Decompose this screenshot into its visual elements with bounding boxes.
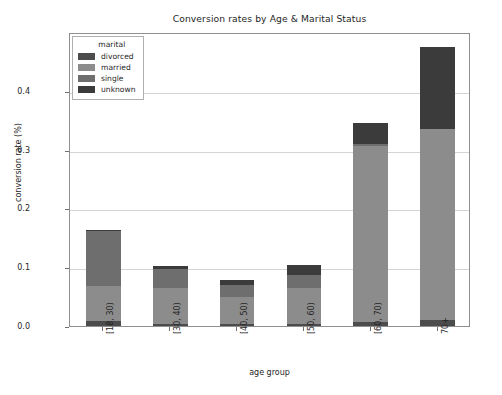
legend-swatch-icon [78, 53, 95, 60]
bar-segment-married[interactable] [353, 146, 388, 322]
y-tick-mark [65, 209, 69, 210]
legend-item-unknown[interactable]: unknown [78, 84, 136, 95]
legend-item-single[interactable]: single [78, 73, 136, 84]
legend: marital divorcedmarriedsingleunknown [72, 36, 144, 100]
bar-group[interactable] [287, 33, 322, 326]
legend-item-label: single [101, 74, 123, 83]
y-tick-mark [65, 92, 69, 93]
bar-segment-unknown[interactable] [420, 47, 455, 129]
y-tick-label: 0.2 [17, 204, 30, 213]
legend-title: marital [92, 40, 136, 49]
bar-group[interactable] [153, 33, 188, 326]
y-axis-label: conversion rate (%) [14, 83, 23, 243]
gridline [70, 152, 469, 153]
y-tick-label: 0.1 [17, 263, 30, 272]
bar-group[interactable] [220, 33, 255, 326]
x-tick-mark [236, 327, 237, 331]
bar-segment-married[interactable] [86, 286, 121, 321]
legend-item-divorced[interactable]: divorced [78, 51, 136, 62]
x-tick-mark [303, 327, 304, 331]
legend-swatch-icon [78, 64, 95, 71]
bar-segment-married[interactable] [287, 288, 322, 323]
bar-segment-unknown[interactable] [86, 230, 121, 231]
bar-segment-single[interactable] [86, 231, 121, 286]
legend-item-label: married [101, 63, 131, 72]
x-tick-mark [169, 327, 170, 331]
bar-segment-unknown[interactable] [353, 123, 388, 144]
bar-segment-unknown[interactable] [220, 280, 255, 285]
legend-swatch-icon [78, 75, 95, 82]
x-tick-label: [60, 70) [374, 302, 383, 334]
legend-item-label: unknown [101, 85, 136, 94]
legend-entries: divorcedmarriedsingleunknown [78, 51, 136, 95]
bar-segment-divorced[interactable] [153, 324, 188, 326]
bar-segment-single[interactable] [287, 275, 322, 288]
legend-swatch-icon [78, 86, 95, 93]
bar-group[interactable] [353, 33, 388, 326]
bar-segment-single[interactable] [220, 285, 255, 297]
bar-segment-divorced[interactable] [287, 324, 322, 326]
x-tick-label: [50, 60) [307, 302, 316, 334]
x-tick-label: [40, 50) [240, 302, 249, 334]
gridline [70, 269, 469, 270]
legend-item-married[interactable]: married [78, 62, 136, 73]
x-tick-label: 70+ [441, 317, 450, 334]
bar-group[interactable] [420, 33, 455, 326]
chart-figure: Conversion rates by Age & Marital Status… [0, 0, 502, 395]
x-tick-label: [30, 40) [173, 302, 182, 334]
bar-segment-unknown[interactable] [153, 266, 188, 269]
bar-segment-divorced[interactable] [220, 324, 255, 326]
y-tick-mark [65, 327, 69, 328]
bar-segment-married[interactable] [420, 129, 455, 320]
x-tick-label: [18, 30) [106, 302, 115, 334]
x-tick-mark [437, 327, 438, 331]
chart-title: Conversion rates by Age & Marital Status [69, 13, 470, 24]
x-axis-label: age group [69, 368, 470, 377]
y-tick-mark [65, 151, 69, 152]
y-tick-mark [65, 268, 69, 269]
bar-segment-unknown[interactable] [287, 265, 322, 275]
bar-segment-single[interactable] [353, 144, 388, 146]
y-tick-label: 0.0 [17, 322, 30, 331]
legend-item-label: divorced [101, 52, 134, 61]
y-tick-label: 0.3 [17, 146, 30, 155]
bar-segment-divorced[interactable] [86, 321, 121, 326]
bar-segment-married[interactable] [220, 297, 255, 325]
x-tick-mark [102, 327, 103, 331]
bar-segment-single[interactable] [153, 269, 188, 288]
x-tick-mark [370, 327, 371, 331]
y-tick-label: 0.4 [17, 87, 30, 96]
gridline [70, 210, 469, 211]
bar-segment-married[interactable] [153, 288, 188, 323]
